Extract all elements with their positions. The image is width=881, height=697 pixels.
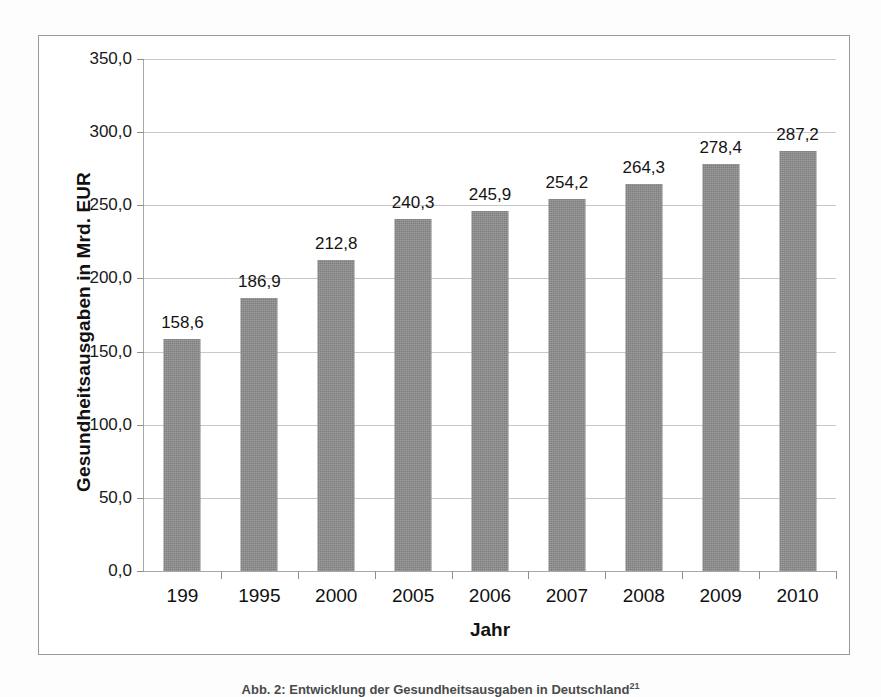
y-axis-tick	[137, 352, 144, 353]
bar-value-label: 287,2	[776, 125, 819, 145]
x-axis-tick	[836, 571, 837, 579]
bar-slot: 254,2	[528, 59, 605, 571]
bar[interactable]	[241, 298, 278, 571]
x-axis-tick-label: 2000	[315, 585, 357, 607]
bar-value-label: 212,8	[315, 234, 358, 254]
x-axis-tick-label: 1995	[238, 585, 280, 607]
y-axis-tick-label: 200,0	[89, 268, 132, 288]
x-axis-tick-label: 2008	[623, 585, 665, 607]
y-axis-title: Gesundheitsausgaben in Mrd. EUR	[73, 72, 95, 592]
bar-slot: 245,9	[452, 59, 529, 571]
bar-value-label: 264,3	[622, 158, 665, 178]
bar[interactable]	[548, 199, 585, 571]
x-axis-tick-label: 199	[167, 585, 199, 607]
y-axis-tick-label: 150,0	[89, 342, 132, 362]
x-axis-tick-label: 2009	[700, 585, 742, 607]
x-axis-tick	[375, 571, 376, 579]
x-axis-tick	[759, 571, 760, 579]
y-axis-tick-label: 50,0	[99, 488, 132, 508]
bar-slot: 212,8	[298, 59, 375, 571]
y-axis-tick-label: 0,0	[108, 561, 132, 581]
figure-caption: Abb. 2: Entwicklung der Gesundheitsausga…	[0, 681, 881, 697]
bar[interactable]	[471, 211, 508, 571]
bar-slot: 240,3	[375, 59, 452, 571]
y-axis-tick	[137, 278, 144, 279]
bar[interactable]	[318, 260, 355, 571]
y-axis-tick	[137, 498, 144, 499]
bar-value-label: 254,2	[546, 173, 589, 193]
x-axis-tick-label: 2005	[392, 585, 434, 607]
x-axis-tick	[298, 571, 299, 579]
scanned-page: Gesundheitsausgaben in Mrd. EUR 0,050,01…	[0, 0, 881, 697]
x-axis-tick	[682, 571, 683, 579]
gridline	[144, 571, 836, 572]
y-axis-tick	[137, 425, 144, 426]
figure-caption-footnote: 21	[629, 681, 639, 691]
y-axis-tick	[137, 59, 144, 60]
bar-slot: 264,3	[605, 59, 682, 571]
bar-value-label: 158,6	[161, 313, 204, 333]
bar[interactable]	[395, 219, 432, 571]
bar-slot: 287,2	[759, 59, 836, 571]
y-axis-tick	[137, 205, 144, 206]
x-axis-tick	[528, 571, 529, 579]
x-axis-tick-label: 2010	[776, 585, 818, 607]
bar[interactable]	[625, 184, 662, 571]
bar[interactable]	[779, 151, 816, 571]
bar-slot: 278,4	[682, 59, 759, 571]
x-axis-tick	[221, 571, 222, 579]
y-axis-tick-label: 250,0	[89, 195, 132, 215]
bar[interactable]	[702, 164, 739, 571]
x-axis-title: Jahr	[144, 619, 836, 641]
bar-value-label: 186,9	[238, 272, 281, 292]
y-axis-tick	[137, 132, 144, 133]
bar[interactable]	[164, 339, 201, 571]
chart-frame: Gesundheitsausgaben in Mrd. EUR 0,050,01…	[38, 35, 850, 655]
x-axis-tick	[452, 571, 453, 579]
figure-caption-text: Abb. 2: Entwicklung der Gesundheitsausga…	[242, 682, 630, 697]
y-axis-tick-label: 100,0	[89, 415, 132, 435]
plot-area: 0,050,0100,0150,0200,0250,0300,0350,0 15…	[144, 59, 836, 571]
bar-value-label: 245,9	[469, 185, 512, 205]
x-axis-tick-label: 2007	[546, 585, 588, 607]
x-axis-tick-label: 2006	[469, 585, 511, 607]
y-axis-tick-label: 350,0	[89, 49, 132, 69]
bar-value-label: 240,3	[392, 193, 435, 213]
bar-value-label: 278,4	[699, 138, 742, 158]
y-axis-tick	[137, 571, 144, 572]
bar-slot: 186,9	[221, 59, 298, 571]
bar-slot: 158,6	[144, 59, 221, 571]
x-axis-tick	[605, 571, 606, 579]
y-axis-tick-label: 300,0	[89, 122, 132, 142]
